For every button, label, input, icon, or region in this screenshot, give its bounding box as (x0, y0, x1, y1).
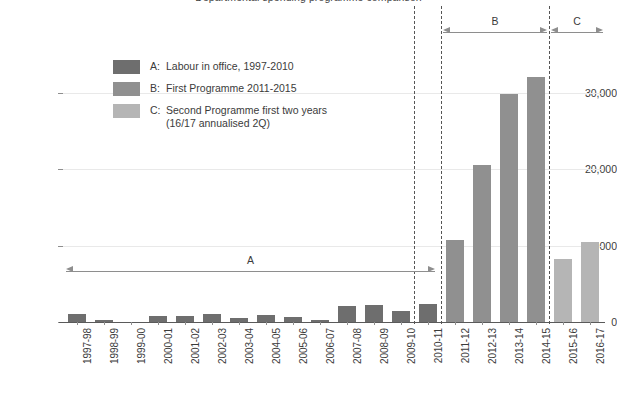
arrow-period-b-line (443, 32, 547, 33)
x-tick-label-2006-07: 2006-07 (325, 328, 336, 388)
arrow-period-a-arrowhead-left-icon (66, 266, 73, 272)
bar-2011-12 (446, 240, 464, 322)
bar-2004-05 (257, 315, 275, 322)
bar-1997-98 (68, 314, 86, 322)
arrow-period-c-arrowhead-left-icon (551, 27, 558, 33)
legend-item-b: B: First Programme 2011-2015 (113, 82, 413, 96)
legend-label-c-line2: (16/17 annualised 2Q) (166, 117, 327, 130)
arrow-period-c-arrowhead-right-icon (596, 27, 603, 33)
legend-item-c: C: Second Programme first two years (16/… (113, 104, 413, 130)
x-tick-label-2015-16: 2015-16 (568, 328, 579, 388)
x-tick-mark-2003-04 (239, 322, 240, 325)
x-tick-mark-1999-00 (131, 322, 132, 325)
arrow-period-a-label: A (66, 254, 435, 266)
arrow-period-c: C (551, 21, 603, 43)
x-tick-mark-2006-07 (320, 322, 321, 325)
x-tick-label-2005-06: 2005-06 (298, 328, 309, 388)
bar-2008-09 (365, 305, 383, 322)
x-tick-label-2009-10: 2009-10 (406, 328, 417, 388)
x-tick-label-1999-00: 1999-00 (136, 328, 147, 388)
x-tick-label-2003-04: 2003-04 (244, 328, 255, 388)
arrow-period-b-arrowhead-left-icon (443, 27, 450, 33)
x-tick-mark-2015-16 (563, 322, 564, 325)
legend-swatch-a (113, 60, 140, 74)
x-tick-label-2004-05: 2004-05 (271, 328, 282, 388)
bar-2012-13 (473, 165, 491, 322)
x-tick-label-2002-03: 2002-03 (217, 328, 228, 388)
legend-key-a: A: (150, 60, 166, 73)
x-tick-label-1997-98: 1997-98 (82, 328, 93, 388)
x-tick-label-2012-13: 2012-13 (487, 328, 498, 388)
x-tick-mark-2000-01 (158, 322, 159, 325)
chart-title: Departmental spending programme comparis… (0, 0, 617, 7)
x-tick-mark-2001-02 (185, 322, 186, 325)
arrow-period-c-label: C (551, 15, 603, 27)
x-tick-label-2014-15: 2014-15 (541, 328, 552, 388)
x-tick-mark-2016-17 (590, 322, 591, 325)
arrow-period-b: B (443, 21, 547, 43)
x-tick-mark-2004-05 (266, 322, 267, 325)
x-tick-mark-2007-08 (347, 322, 348, 325)
x-tick-mark-1998-99 (104, 322, 105, 325)
x-tick-label-2016-17: 2016-17 (595, 328, 606, 388)
x-tick-mark-2005-06 (293, 322, 294, 325)
x-tick-mark-2013-14 (509, 322, 510, 325)
x-tick-label-2001-02: 2001-02 (190, 328, 201, 388)
arrow-period-b-label: B (443, 15, 547, 27)
x-axis-line (59, 322, 605, 323)
legend-label-b: First Programme 2011-2015 (166, 82, 297, 95)
bar-2013-14 (500, 94, 518, 322)
x-tick-label-2000-01: 2000-01 (163, 328, 174, 388)
bar-2009-10 (392, 311, 410, 322)
x-tick-mark-1997-98 (77, 322, 78, 325)
separator-line-2 (441, 6, 442, 324)
x-tick-mark-2002-03 (212, 322, 213, 325)
x-tick-mark-2014-15 (536, 322, 537, 325)
legend-label-a: Labour in office, 1997-2010 (166, 60, 294, 73)
chart-container: Departmental spending programme comparis… (0, 0, 617, 395)
x-tick-label-2013-14: 2013-14 (514, 328, 525, 388)
x-tick-mark-2012-13 (482, 322, 483, 325)
legend: A: Labour in office, 1997-2010 B: First … (113, 60, 413, 138)
bar-2010-11 (419, 304, 437, 322)
arrow-period-a-arrowhead-right-icon (428, 266, 435, 272)
x-tick-mark-2011-12 (455, 322, 456, 325)
x-tick-mark-2008-09 (374, 322, 375, 325)
bar-2015-16 (554, 259, 572, 322)
separator-line-3 (549, 6, 550, 324)
bar-2007-08 (338, 306, 356, 322)
bar-2014-15 (527, 77, 545, 322)
bar-2002-03 (203, 314, 221, 322)
legend-item-a: A: Labour in office, 1997-2010 (113, 60, 413, 74)
x-tick-label-1998-99: 1998-99 (109, 328, 120, 388)
x-tick-label-2007-08: 2007-08 (352, 328, 363, 388)
x-tick-mark-2010-11 (428, 322, 429, 325)
bar-2016-17 (581, 242, 599, 322)
legend-key-b: B: (150, 82, 166, 95)
legend-label-c: Second Programme first two years (16/17 … (166, 104, 327, 130)
legend-swatch-b (113, 82, 140, 96)
x-axis-labels: 1997-981998-991999-002000-012001-022002-… (63, 324, 603, 394)
arrow-period-b-arrowhead-right-icon (540, 27, 547, 33)
x-tick-label-2010-11: 2010-11 (433, 328, 444, 388)
arrow-period-a-line (66, 271, 435, 272)
legend-label-c-line1: Second Programme first two years (166, 104, 327, 116)
arrow-period-a: A (66, 260, 435, 282)
x-tick-label-2008-09: 2008-09 (379, 328, 390, 388)
x-tick-mark-2009-10 (401, 322, 402, 325)
legend-key-c: C: (150, 104, 166, 117)
x-tick-label-2011-12: 2011-12 (460, 328, 471, 388)
legend-swatch-c (113, 104, 140, 118)
